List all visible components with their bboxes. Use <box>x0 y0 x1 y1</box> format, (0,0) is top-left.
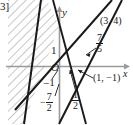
fraction-denominator: 2 <box>46 102 53 113</box>
tick-label-y-negative-one-value: 1 <box>49 76 55 88</box>
fraction-denominator-2: 2 <box>72 100 79 111</box>
problem-tag: 3] <box>0 1 9 12</box>
leader-neg-seven-halves <box>55 84 59 96</box>
fraction-seven-halves: 72 <box>46 92 53 113</box>
origin-label: O <box>51 62 59 73</box>
fraction-numerator-2: 1 <box>72 90 79 100</box>
fraction-one-half: 12 <box>72 90 79 111</box>
fraction-numerator-3: 7 <box>96 33 103 43</box>
tick-label-y-negative-seven-halves: −72 <box>40 92 53 113</box>
x-axis-label: x <box>123 69 127 79</box>
tick-label-y-negative-one: −1 <box>43 77 55 89</box>
fraction-seven-fifths: 75 <box>96 33 103 54</box>
fraction-numerator: 7 <box>46 92 53 102</box>
tick-label-x-one-half: 12 <box>72 90 79 111</box>
point-label-3-4: (3, 4) <box>100 16 122 26</box>
math-figure: 3] y x O 1 −1 −72 12 75 (3, 4) (1, −1) <box>0 0 133 125</box>
fraction-denominator-3: 5 <box>96 43 103 54</box>
tick-label-x-seven-fifths: 75 <box>96 33 103 54</box>
point-label-1-neg1: (1, −1) <box>93 73 120 83</box>
tick-label-y-one: 1 <box>51 45 57 56</box>
y-axis-label: y <box>62 7 67 18</box>
